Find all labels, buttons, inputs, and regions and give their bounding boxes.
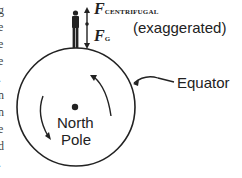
f-gravity-subscript: G — [105, 35, 111, 43]
f-gravity-symbol: F — [94, 27, 105, 44]
equator-pointer — [134, 77, 174, 83]
north-pole-dot — [72, 104, 78, 110]
f-gravity-label: FG — [94, 27, 110, 45]
f-centrifugal-subscript: CENTRIFUGAL — [105, 8, 159, 16]
pole-label: Pole — [61, 131, 91, 148]
exaggerated-label: (exaggerated) — [133, 19, 226, 36]
f-centrifugal-symbol: F — [94, 0, 105, 17]
f-centrifugal-label: FCENTRIFUGAL — [94, 0, 159, 18]
force-arrows-icon — [84, 7, 90, 49]
person-icon — [72, 10, 79, 48]
equator-label: Equator — [177, 74, 230, 91]
north-label: North — [57, 114, 94, 131]
